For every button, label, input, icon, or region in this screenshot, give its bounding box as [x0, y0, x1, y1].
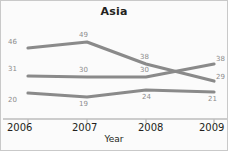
data-label-series3-2007: 19 [79, 101, 88, 108]
x-axis-tick-labels: 2006 2007 2008 2009 [1, 119, 228, 135]
data-label-series2-2006: 31 [8, 66, 17, 73]
series-3-line [28, 90, 214, 97]
x-axis-title: Year [1, 134, 227, 144]
data-label-series2-2007: 30 [79, 67, 88, 74]
page-title: Asia [1, 5, 227, 18]
data-label-series1-2006: 46 [8, 39, 17, 46]
data-label-series1-2008: 38 [140, 54, 149, 61]
x-tick-label-2007: 2007 [72, 122, 97, 133]
data-label-series2-2008: 30 [140, 67, 149, 74]
data-label-series3-2009: 21 [208, 96, 217, 103]
data-label-series1-2009: 29 [216, 74, 225, 81]
data-label-series1-2007: 49 [79, 32, 88, 39]
line-chart-svg [1, 23, 228, 123]
data-label-series2-2009: 38 [216, 56, 225, 63]
x-tick-label-2006: 2006 [7, 122, 32, 133]
data-label-series3-2006: 20 [8, 97, 17, 104]
data-label-series3-2008: 24 [142, 94, 151, 101]
x-tick-label-2009: 2009 [199, 122, 224, 133]
x-tick-label-2008: 2008 [138, 122, 163, 133]
chart-screenshot: Asia 46 49 38 29 31 30 30 38 20 19 24 21… [0, 0, 228, 151]
plot-area: 46 49 38 29 31 30 30 38 20 19 24 21 [1, 23, 228, 123]
